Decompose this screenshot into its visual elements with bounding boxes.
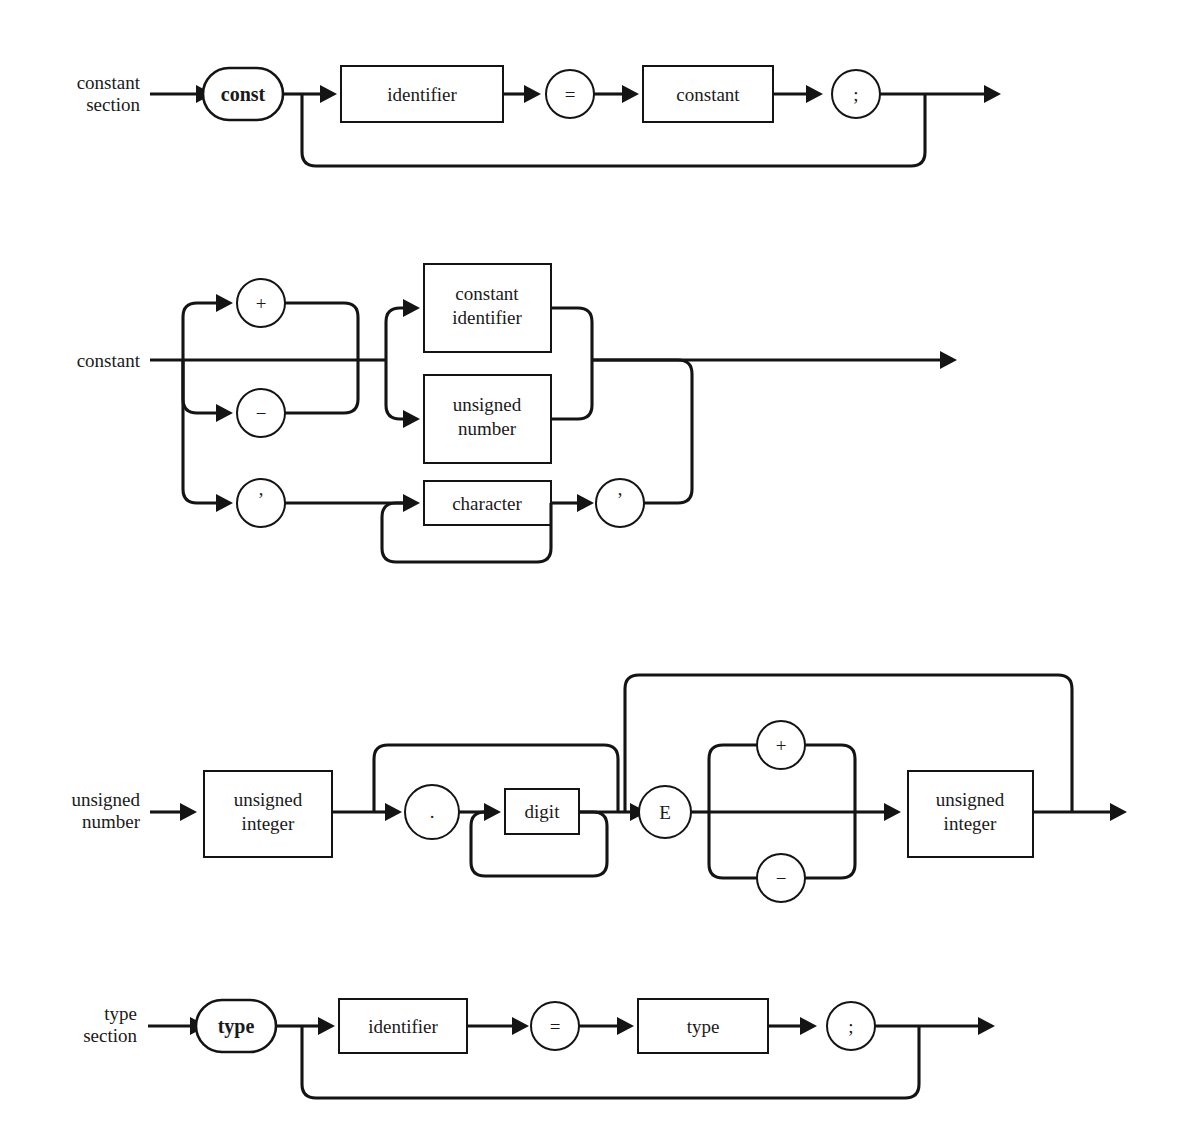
- arrow-icon: [512, 1017, 529, 1035]
- node-type-ref-label: type: [687, 1016, 720, 1037]
- rule-label-constant-section-line1: constant: [77, 72, 141, 93]
- rule-label-unsigned-number-line1: unsigned: [71, 789, 140, 810]
- rail-quote-close-to-main: [592, 360, 692, 503]
- rail-branch-to-constant-identifier: [386, 308, 403, 360]
- diagram-type-section: type section type identifier = type ;: [83, 999, 995, 1098]
- node-unsigned-integer-first-label-line1: unsigned: [234, 789, 303, 810]
- node-semicolon-label: ;: [853, 84, 858, 105]
- arrow-icon: [484, 803, 501, 821]
- rail-minus-to-join: [285, 360, 358, 413]
- arrow-icon: [216, 294, 233, 312]
- node-exponent-plus-label: +: [776, 735, 787, 756]
- arrow-icon: [524, 85, 541, 103]
- rail-exp-minus-to-join: [805, 812, 855, 878]
- rail-branch-to-unsigned-number: [386, 360, 403, 419]
- arrow-icon: [403, 299, 420, 317]
- rail-branch-to-quote-open: [183, 360, 216, 503]
- node-const-keyword-label: const: [221, 83, 266, 105]
- arrow-icon: [978, 1017, 995, 1035]
- arrow-icon: [800, 1017, 817, 1035]
- node-equals-label: =: [565, 84, 576, 105]
- railroad-diagrams-canvas: constant section const identifier = cons…: [0, 0, 1193, 1143]
- syntax-diagram-sheet: constant section const identifier = cons…: [0, 0, 1193, 1143]
- arrow-icon: [617, 1017, 634, 1035]
- node-period-label: .: [430, 801, 435, 822]
- node-digit-label: digit: [525, 801, 561, 822]
- node-unsigned-integer-first-label-line2: integer: [242, 813, 295, 834]
- arrow-icon: [318, 1017, 335, 1035]
- node-semicolon-label: ;: [848, 1016, 853, 1037]
- rail-branch-to-exp-minus: [709, 812, 757, 878]
- rail-exp-plus-to-join: [805, 745, 855, 812]
- rail-unsigned-number-to-join: [551, 360, 592, 419]
- arrow-icon: [577, 494, 594, 512]
- node-exponent-minus-label: −: [776, 868, 787, 889]
- arrow-icon: [216, 494, 233, 512]
- rule-label-type-section-line1: type: [104, 1003, 137, 1024]
- node-quote-open-label: ’: [258, 489, 264, 510]
- arrow-icon: [320, 85, 337, 103]
- arrow-icon: [216, 404, 233, 422]
- node-identifier-label: identifier: [368, 1016, 438, 1037]
- node-type-keyword-label: type: [218, 1015, 255, 1038]
- arrow-icon: [1110, 803, 1127, 821]
- node-character-label: character: [452, 493, 522, 514]
- rail-branch-to-minus: [183, 360, 216, 413]
- rule-label-unsigned-number-line2: number: [82, 811, 141, 832]
- node-constant-identifier-label-line1: constant: [455, 283, 519, 304]
- arrow-icon: [984, 85, 1001, 103]
- diagram-unsigned-number: unsigned number unsigned integer . digit: [71, 675, 1127, 902]
- node-minus-label: −: [256, 403, 267, 424]
- node-exponent-e-label: E: [659, 802, 671, 823]
- arrow-icon: [403, 410, 420, 428]
- node-unsigned-integer-second-label-line1: unsigned: [936, 789, 1005, 810]
- arrow-icon: [806, 85, 823, 103]
- rule-label-type-section-line2: section: [83, 1025, 137, 1046]
- rail-branch-to-plus: [183, 303, 216, 360]
- arrow-icon: [403, 494, 420, 512]
- node-constant-identifier-label-line2: identifier: [452, 307, 522, 328]
- node-identifier-label: identifier: [387, 84, 457, 105]
- diagram-constant: constant + − ’ constant identifier: [77, 264, 957, 562]
- node-plus-label: +: [256, 293, 267, 314]
- node-unsigned-number-label-line2: number: [458, 418, 517, 439]
- arrow-icon: [940, 351, 957, 369]
- arrow-icon: [385, 803, 402, 821]
- rail-branch-to-exp-plus: [709, 745, 757, 812]
- rule-label-constant-section-line2: section: [86, 94, 140, 115]
- node-equals-label: =: [550, 1016, 561, 1037]
- arrow-icon: [884, 803, 901, 821]
- arrow-icon: [180, 803, 197, 821]
- rail-constant-identifier-to-join: [551, 308, 592, 360]
- node-unsigned-integer-second-label-line2: integer: [944, 813, 997, 834]
- node-constant-ref-label: constant: [676, 84, 740, 105]
- rail-plus-to-join: [285, 303, 358, 360]
- node-quote-close-label: ’: [617, 489, 623, 510]
- rule-label-constant: constant: [77, 350, 141, 371]
- diagram-constant-section: constant section const identifier = cons…: [77, 66, 1001, 166]
- arrow-icon: [622, 85, 639, 103]
- node-unsigned-number-label-line1: unsigned: [453, 394, 522, 415]
